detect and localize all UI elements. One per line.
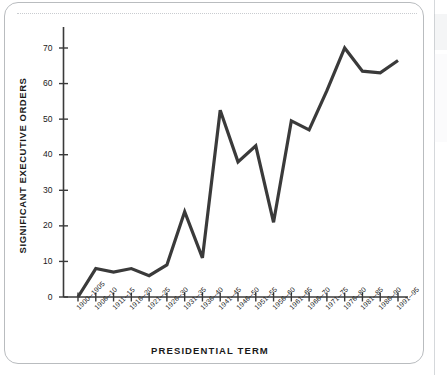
y-tick-label: 10 (31, 256, 53, 266)
y-tick-label: 50 (31, 114, 53, 124)
y-tick-label: 20 (31, 220, 53, 230)
y-tick-label: 60 (31, 78, 53, 88)
y-tick-label: 40 (31, 149, 53, 159)
x-axis-title: PRESIDENTIAL TERM (0, 345, 420, 356)
data-series-line (78, 48, 398, 297)
y-tick-label: 30 (31, 185, 53, 195)
y-tick-label: 0 (31, 292, 53, 302)
y-axis-title: SIGNIFICANT EXECUTIVE ORDERS (17, 66, 28, 266)
y-tick-label: 70 (31, 43, 53, 53)
